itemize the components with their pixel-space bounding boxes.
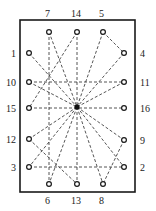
point-12 <box>27 137 32 142</box>
edge-10-C <box>29 82 77 107</box>
label-16: 16 <box>140 103 150 114</box>
point-4 <box>122 51 127 56</box>
edge-5-C <box>77 32 103 107</box>
label-10: 10 <box>6 77 16 88</box>
edge-C-9 <box>77 107 124 140</box>
point-3 <box>27 165 32 170</box>
connection-diagram: 12345678910111213141516 <box>0 0 156 211</box>
label-8: 8 <box>99 195 104 206</box>
point-7 <box>47 30 52 35</box>
edge-7-C <box>49 32 77 107</box>
edge-C-12 <box>29 107 77 139</box>
edge-C-6 <box>49 107 77 184</box>
edge-9-8 <box>103 140 124 184</box>
edge-1-C <box>29 53 77 107</box>
edge-C-8 <box>77 107 103 184</box>
label-7: 7 <box>45 8 50 19</box>
edge-C-2 <box>77 107 124 167</box>
point-11 <box>122 80 127 85</box>
label-4: 4 <box>140 48 145 59</box>
point-2 <box>122 165 127 170</box>
label-5: 5 <box>99 8 104 19</box>
label-15: 15 <box>6 103 16 114</box>
point-8 <box>101 182 106 187</box>
edge-C-3 <box>29 107 77 167</box>
edge-5-4 <box>103 32 124 53</box>
label-1: 1 <box>11 48 16 59</box>
point-6 <box>47 182 52 187</box>
point-9 <box>122 138 127 143</box>
edge-12-13 <box>29 139 77 184</box>
label-6: 6 <box>45 195 50 206</box>
label-12: 12 <box>6 134 16 145</box>
label-14: 14 <box>71 8 81 19</box>
point-5 <box>101 30 106 35</box>
point-16 <box>122 106 127 111</box>
label-3: 3 <box>11 162 16 173</box>
label-13: 13 <box>71 195 81 206</box>
point-10 <box>27 80 32 85</box>
center-node <box>74 104 79 109</box>
point-14 <box>75 30 80 35</box>
point-13 <box>75 182 80 187</box>
point-15 <box>27 106 32 111</box>
label-2: 2 <box>140 162 145 173</box>
point-1 <box>27 51 32 56</box>
edge-4-C <box>77 53 124 107</box>
label-9: 9 <box>140 135 145 146</box>
label-11: 11 <box>140 77 150 88</box>
